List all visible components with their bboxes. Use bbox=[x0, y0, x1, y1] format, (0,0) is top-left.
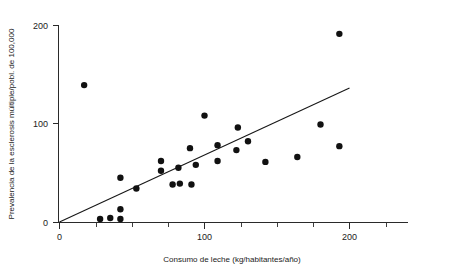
data-point bbox=[336, 143, 342, 149]
data-point bbox=[233, 147, 239, 153]
data-point bbox=[317, 121, 323, 127]
data-point bbox=[81, 82, 87, 88]
data-point bbox=[214, 158, 220, 164]
data-point bbox=[117, 216, 123, 222]
data-point bbox=[294, 154, 300, 160]
data-point bbox=[169, 181, 175, 187]
data-point bbox=[235, 124, 241, 130]
data-point bbox=[158, 158, 164, 164]
regression-trend-line bbox=[60, 88, 350, 222]
x-tick-label-100: 100 bbox=[197, 232, 212, 242]
data-point bbox=[117, 206, 123, 212]
data-point bbox=[187, 145, 193, 151]
data-point bbox=[262, 159, 268, 165]
chart-canvas: 200 100 0 0 100 200 Consumo de leche (kg… bbox=[0, 0, 451, 274]
data-point bbox=[336, 31, 342, 37]
data-point bbox=[245, 138, 251, 144]
data-point bbox=[97, 216, 103, 222]
y-tick-label-0: 0 bbox=[43, 218, 48, 228]
y-tick-label-100: 100 bbox=[33, 119, 48, 129]
data-point bbox=[177, 180, 183, 186]
y-tick-label-200: 200 bbox=[33, 21, 48, 31]
data-point bbox=[133, 185, 139, 191]
data-point bbox=[117, 174, 123, 180]
data-point bbox=[158, 168, 164, 174]
y-axis-title: Prevalencia de la esclerosis múltiple/po… bbox=[7, 28, 16, 219]
data-point bbox=[214, 142, 220, 148]
data-point bbox=[188, 181, 194, 187]
data-point bbox=[201, 112, 207, 118]
x-axis-title: Consumo de leche (kg/habitantes/año) bbox=[163, 255, 301, 264]
data-point bbox=[107, 215, 113, 221]
data-point bbox=[175, 165, 181, 171]
x-tick-label-200: 200 bbox=[342, 232, 357, 242]
x-tick-label-0: 0 bbox=[57, 232, 62, 242]
data-point bbox=[193, 162, 199, 168]
scatter-chart-figure: 200 100 0 0 100 200 Consumo de leche (kg… bbox=[0, 0, 451, 274]
